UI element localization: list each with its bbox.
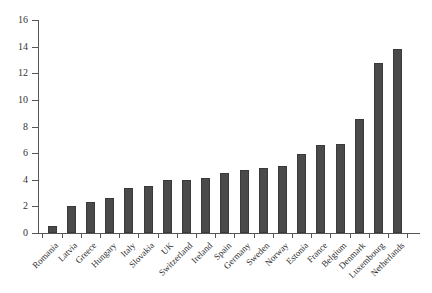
bar — [336, 144, 345, 233]
bar — [259, 168, 268, 233]
x-axis-line — [38, 233, 420, 234]
bar — [278, 166, 287, 233]
bar-chart: 0246810121416 RomaniaLatviaGreeceHungary… — [0, 0, 432, 293]
bar — [316, 145, 325, 233]
y-tick — [32, 47, 38, 48]
y-tick — [32, 20, 38, 21]
bar — [220, 173, 229, 233]
x-tick — [292, 234, 293, 238]
y-tick — [32, 73, 38, 74]
y-tick-label: 14 — [4, 42, 28, 52]
y-tick — [32, 153, 38, 154]
y-tick — [32, 206, 38, 207]
x-tick — [119, 234, 120, 238]
x-tick — [215, 234, 216, 238]
bar — [374, 63, 383, 233]
y-tick — [32, 127, 38, 128]
x-tick — [138, 234, 139, 238]
x-tick — [42, 234, 43, 238]
x-tick — [330, 234, 331, 238]
y-tick-label: 6 — [4, 148, 28, 158]
x-tick — [369, 234, 370, 238]
x-tick — [81, 234, 82, 238]
y-tick-label: 2 — [4, 201, 28, 211]
x-tick — [254, 234, 255, 238]
x-tick — [350, 234, 351, 238]
bar — [240, 170, 249, 233]
y-tick — [32, 180, 38, 181]
x-tick — [62, 234, 63, 238]
y-tick-label: 12 — [4, 68, 28, 78]
bar — [105, 198, 114, 233]
bar — [355, 119, 364, 233]
y-tick-label: 0 — [4, 228, 28, 238]
y-tick-label: 16 — [4, 15, 28, 25]
x-tick — [158, 234, 159, 238]
x-tick — [311, 234, 312, 238]
bar — [297, 154, 306, 233]
x-tick — [196, 234, 197, 238]
y-tick — [32, 100, 38, 101]
y-axis-line — [38, 20, 39, 234]
y-tick-label: 8 — [4, 122, 28, 132]
y-tick — [32, 233, 38, 234]
x-tick — [388, 234, 389, 238]
bar — [124, 188, 133, 233]
y-tick-label: 4 — [4, 175, 28, 185]
x-tick — [177, 234, 178, 238]
bar — [393, 49, 402, 233]
bar — [48, 226, 57, 233]
x-tick — [100, 234, 101, 238]
x-tick — [407, 234, 408, 238]
x-tick — [234, 234, 235, 238]
x-tick — [273, 234, 274, 238]
y-tick-label: 10 — [4, 95, 28, 105]
bar — [163, 180, 172, 233]
bar — [67, 206, 76, 233]
bar — [182, 180, 191, 233]
bar — [201, 178, 210, 233]
bar — [86, 202, 95, 233]
bar — [144, 186, 153, 233]
